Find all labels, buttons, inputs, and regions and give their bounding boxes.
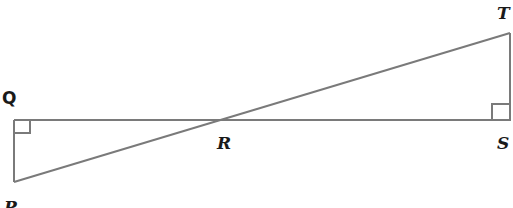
geometry-diagram: Q P R S T — [0, 0, 513, 208]
label-r: R — [216, 133, 231, 153]
label-q: Q — [2, 88, 16, 108]
label-s: S — [497, 133, 509, 153]
label-p: P — [3, 197, 18, 208]
segment-pt — [14, 33, 510, 182]
right-angle-marker-s — [492, 104, 510, 120]
label-t: T — [497, 3, 511, 23]
right-angle-marker-q — [14, 120, 30, 133]
